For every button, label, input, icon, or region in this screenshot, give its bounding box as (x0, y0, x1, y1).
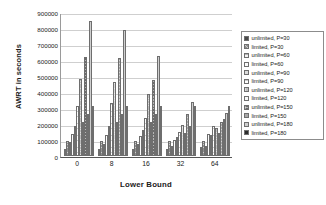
legend-swatch-icon (244, 53, 249, 58)
y-axis-tick: 800000 (18, 27, 58, 33)
legend-swatch-icon (244, 130, 249, 135)
bar (126, 106, 129, 156)
legend-item-label: unlimited, P=90 (252, 70, 290, 76)
legend-item-label: unlimited, P=150 (252, 104, 293, 110)
y-axis-tick: 100000 (18, 139, 58, 145)
legend-swatch-icon (244, 44, 249, 49)
y-axis-tick: 600000 (18, 59, 58, 65)
bar (92, 106, 95, 156)
bar (160, 106, 163, 156)
legend-item[interactable]: unlimited, P=60 (244, 51, 321, 60)
legend-item-label: unlimited, P=30 (252, 35, 290, 41)
x-axis-tick: 64 (198, 160, 232, 168)
legend-item-label: limited, P=30 (252, 44, 284, 50)
legend-item[interactable]: limited, P=180 (244, 129, 321, 138)
legend-item[interactable]: limited, P=60 (244, 60, 321, 69)
legend-item[interactable]: limited, P=120 (244, 94, 321, 103)
legend-item[interactable]: unlimited, P=180 (244, 120, 321, 129)
bar-group (62, 14, 96, 156)
plot-area (60, 14, 232, 158)
legend-item-label: unlimited, P=60 (252, 52, 290, 58)
y-axis-tick: 400000 (18, 91, 58, 97)
legend-item-label: limited, P=120 (252, 95, 287, 101)
legend-item[interactable]: unlimited, P=30 (244, 34, 321, 43)
x-axis-tick-labels: 08163264 (60, 160, 232, 168)
y-axis-tick: 0 (18, 155, 58, 161)
bar-group (198, 14, 232, 156)
legend-item[interactable]: unlimited, P=120 (244, 86, 321, 95)
legend-item-label: unlimited, P=120 (252, 87, 293, 93)
bar-chart: AWRT in seconds 900000800000700000600000… (0, 0, 326, 205)
legend-swatch-icon (244, 96, 249, 101)
y-axis-tick: 200000 (18, 123, 58, 129)
legend-item[interactable]: unlimited, P=150 (244, 103, 321, 112)
legend-item[interactable]: limited, P=150 (244, 111, 321, 120)
bar-group (130, 14, 164, 156)
legend-item-label: limited, P=90 (252, 78, 284, 84)
legend-item[interactable]: unlimited, P=90 (244, 68, 321, 77)
y-axis-tick-labels: 9000008000007000006000005000004000003000… (18, 14, 58, 158)
x-axis-tick: 8 (94, 160, 128, 168)
legend-item[interactable]: limited, P=30 (244, 43, 321, 52)
legend-swatch-icon (244, 36, 249, 41)
y-axis-tick: 300000 (18, 107, 58, 113)
legend-swatch-icon (244, 70, 249, 75)
legend-swatch-icon (244, 79, 249, 84)
bar-group (164, 14, 198, 156)
legend-swatch-icon (244, 62, 249, 67)
legend-item-label: limited, P=60 (252, 61, 284, 67)
x-axis-tick: 32 (163, 160, 197, 168)
x-axis-tick: 16 (129, 160, 163, 168)
legend-item-label: limited, P=150 (252, 113, 287, 119)
bar-groups (62, 14, 232, 156)
bar-group (96, 14, 130, 156)
y-axis-tick: 900000 (18, 11, 58, 17)
x-axis-title: Lower Bound (40, 180, 252, 189)
legend-swatch-icon (244, 87, 249, 92)
legend-item-label: unlimited, P=180 (252, 121, 293, 127)
bar (194, 106, 197, 156)
legend-swatch-icon (244, 113, 249, 118)
legend-swatch-icon (244, 105, 249, 110)
legend-item-label: limited, P=180 (252, 130, 287, 136)
x-axis-tick: 0 (60, 160, 94, 168)
y-axis-tick: 500000 (18, 75, 58, 81)
bar (228, 106, 231, 156)
chart-legend: unlimited, P=30limited, P=30unlimited, P… (241, 31, 324, 140)
legend-item[interactable]: limited, P=90 (244, 77, 321, 86)
y-axis-tick: 700000 (18, 43, 58, 49)
legend-swatch-icon (244, 122, 249, 127)
